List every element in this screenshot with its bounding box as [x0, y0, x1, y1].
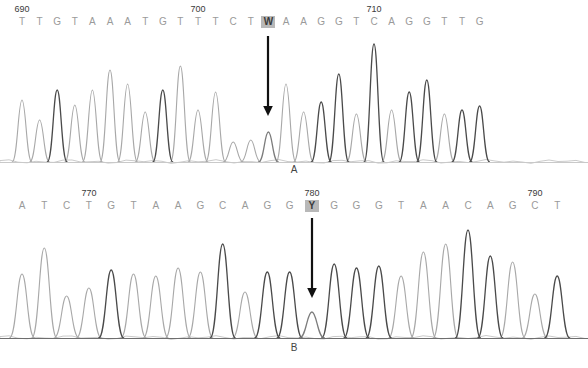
base-call: T: [37, 200, 51, 212]
trace-svg: [0, 34, 588, 164]
base-call: T: [394, 200, 408, 212]
peak-trace: [233, 292, 258, 338]
peak-trace: [188, 110, 208, 162]
peak-trace: [65, 105, 85, 162]
peak-trace: [121, 274, 146, 338]
peak-trace: [452, 110, 472, 162]
peak-trace: [411, 252, 436, 338]
peak-trace: [10, 274, 35, 338]
base-call: G: [193, 200, 207, 212]
base-call: A: [85, 16, 99, 28]
base-call: C: [528, 200, 542, 212]
base-call: A: [149, 200, 163, 212]
base-call: A: [15, 200, 29, 212]
trace-svg: [0, 218, 588, 340]
base-call: C: [461, 200, 475, 212]
base-call: A: [121, 16, 135, 28]
peak-trace: [344, 268, 369, 338]
peak-trace: [329, 74, 349, 162]
panel-a-variant-arrow: [262, 36, 274, 116]
panel-b-label: B: [0, 342, 588, 354]
base-call: G: [50, 16, 64, 28]
base-call: G: [283, 200, 297, 212]
arrow-head: [307, 288, 317, 298]
panel-b-sequence-strip: ATCTGTAAGCAGGYGGGTAACAGCT770780790: [0, 184, 588, 218]
base-call: Y: [305, 200, 319, 212]
arrow-head: [264, 106, 274, 116]
base-call: T: [33, 16, 47, 28]
base-call: G: [350, 200, 364, 212]
base-call: G: [327, 200, 341, 212]
peak-trace: [135, 112, 155, 162]
peak-trace: [500, 262, 525, 338]
peak-trace: [311, 102, 331, 162]
base-call: T: [550, 200, 564, 212]
peak-trace: [99, 270, 124, 338]
panel-b-variant-arrow: [306, 218, 318, 298]
position-number: 770: [76, 188, 102, 198]
base-call: W: [261, 16, 275, 28]
peak-trace: [100, 70, 120, 162]
base-call: G: [332, 16, 346, 28]
panel-b: ATCTGTAAGCAGGYGGGTAACAGCT770780790 B: [0, 184, 588, 368]
base-call: G: [314, 16, 328, 28]
position-number: 780: [299, 188, 325, 198]
base-call: C: [367, 16, 381, 28]
peak-trace: [294, 112, 314, 162]
peak-trace: [171, 66, 191, 162]
base-call: G: [473, 16, 487, 28]
panel-a-label: A: [0, 164, 588, 176]
base-call: T: [68, 16, 82, 28]
base-call: A: [171, 200, 185, 212]
position-number: 690: [9, 4, 35, 14]
peak-trace: [433, 244, 458, 338]
base-call: A: [439, 200, 453, 212]
panel-b-chromatogram: [0, 218, 588, 340]
peak-trace: [456, 230, 481, 338]
peak-trace: [206, 92, 226, 162]
peak-trace: [470, 106, 490, 162]
base-call: T: [15, 16, 29, 28]
base-call: C: [216, 200, 230, 212]
peak-trace: [322, 264, 347, 338]
peak-trace: [399, 92, 419, 162]
base-call: T: [437, 16, 451, 28]
panel-a-sequence-strip: TTGTAAATGTTTCTWAAGGTCAGGTTG690700710: [0, 0, 588, 34]
peak-trace: [223, 142, 243, 162]
peak-trace: [153, 90, 173, 162]
peak-trace: [54, 296, 79, 338]
base-call: T: [173, 16, 187, 28]
peak-trace: [366, 266, 391, 338]
peak-trace: [47, 90, 67, 162]
base-call: A: [297, 16, 311, 28]
peak-trace: [277, 272, 302, 338]
base-call: A: [385, 16, 399, 28]
base-call: G: [372, 200, 386, 212]
peak-trace: [389, 276, 414, 338]
base-call: A: [416, 200, 430, 212]
base-call: C: [226, 16, 240, 28]
peak-trace: [143, 276, 168, 338]
base-call: A: [279, 16, 293, 28]
base-call: G: [260, 200, 274, 212]
peak-trace: [276, 84, 296, 162]
base-call: T: [209, 16, 223, 28]
position-number: 710: [361, 4, 387, 14]
peak-trace: [382, 110, 402, 162]
peak-trace: [435, 114, 455, 162]
peak-trace: [241, 140, 261, 162]
peak-trace: [522, 294, 547, 338]
base-call: G: [104, 200, 118, 212]
peak-trace: [83, 90, 103, 162]
peak-trace: [255, 272, 280, 338]
panel-a-chromatogram: [0, 34, 588, 164]
peak-trace: [32, 248, 57, 338]
base-call: T: [138, 16, 152, 28]
peak-trace: [299, 312, 324, 338]
base-call: C: [60, 200, 74, 212]
peak-trace: [12, 100, 32, 162]
peak-trace: [30, 120, 50, 162]
position-number: 790: [522, 188, 548, 198]
base-call: G: [156, 16, 170, 28]
peak-trace: [347, 114, 367, 162]
